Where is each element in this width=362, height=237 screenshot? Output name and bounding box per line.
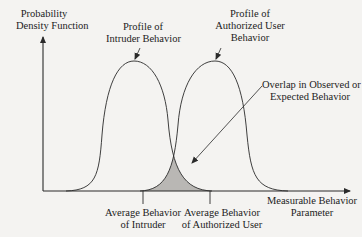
overlap-pointer-arrow: [192, 86, 262, 163]
authorized-average-label-line2: of Authorized User: [176, 219, 268, 231]
intruder-pointer-arrow: [135, 48, 140, 59]
intruder-average-label-line1: Average Behavior: [104, 207, 182, 219]
authorized-profile-label-line2: Authorized User: [212, 20, 288, 32]
intruder-profile-label: Profile of Intruder Behavior: [106, 21, 180, 45]
intruder-profile-label-line2: Intruder Behavior: [106, 33, 180, 45]
intruder-average-label-line2: of Intruder: [104, 219, 182, 231]
intrusion-detection-diagram: Probability Density Function Profile of …: [0, 0, 362, 237]
x-axis-label-line2: Parameter: [262, 207, 362, 219]
overlap-label-line2: Expected Behavior: [262, 91, 358, 103]
intruder-profile-label-line1: Profile of: [106, 21, 180, 33]
x-axis-label-line1: Measurable Behavior: [262, 195, 362, 207]
authorized-pointer-arrow: [216, 48, 221, 59]
intruder-curve: [66, 61, 212, 191]
authorized-profile-label-line3: Behavior: [212, 32, 288, 44]
overlap-label: Overlap in Observed or Expected Behavior: [262, 79, 358, 103]
intruder-average-label: Average Behavior of Intruder: [104, 207, 182, 231]
authorized-profile-label: Profile of Authorized User Behavior: [212, 8, 288, 44]
y-axis-label-line2: Density Function: [16, 20, 72, 32]
overlap-label-line1: Overlap in Observed or: [262, 79, 358, 91]
y-axis-label-line1: Probability: [16, 8, 72, 20]
authorized-average-label: Average Behavior of Authorized User: [176, 207, 268, 231]
y-axis-label: Probability Density Function: [16, 8, 72, 32]
authorized-average-label-line1: Average Behavior: [176, 207, 268, 219]
authorized-profile-label-line1: Profile of: [212, 8, 288, 20]
x-axis-label: Measurable Behavior Parameter: [262, 195, 362, 219]
